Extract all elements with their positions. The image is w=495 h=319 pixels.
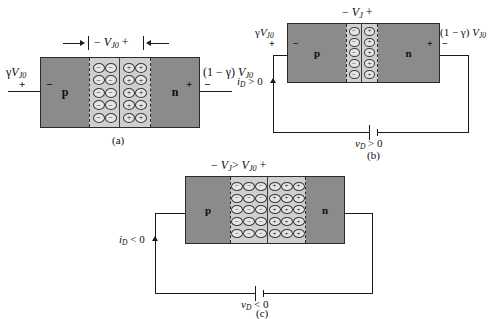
panel-c-charge-row: +++ — [269, 182, 305, 191]
panel-c-n-region: n — [306, 177, 344, 243]
positive-charge-icon: + — [281, 217, 293, 226]
panel-a-n-region: n — [151, 58, 199, 127]
panel-c-depletion-negative-half: −−− −−− −−− −−− −−− — [231, 177, 268, 243]
panel-a-left-lead — [8, 91, 40, 92]
panel-b-current-arrowhead-icon — [270, 78, 276, 83]
panel-b-left-plus-sign: + — [269, 39, 275, 49]
panel-c-charge-row: −−− — [231, 217, 267, 226]
negative-charge-icon: − — [255, 194, 267, 203]
panel-b-right-symbol: V — [472, 26, 479, 38]
panel-b-charge-row: − — [349, 38, 360, 47]
panel-a-left-plus-sign: + — [19, 79, 25, 90]
panel-b-bottom-left-wire — [273, 132, 369, 133]
panel-b-charge-row: + — [364, 38, 375, 47]
panel-c-p-label: p — [205, 204, 211, 216]
panel-c: − VJ> VJ0 + p −−− −−− −−− −−− −−− +++ ++… — [110, 155, 450, 315]
negative-charge-icon: − — [243, 205, 255, 214]
panel-a-charge-row: −− — [93, 100, 117, 110]
panel-c-junction-minus: − — [211, 158, 218, 172]
positive-charge-icon: + — [281, 205, 293, 214]
panel-a-charge-row: −− — [93, 63, 117, 73]
panel-a-junction-plus: + — [122, 35, 129, 49]
positive-charge-icon: + — [123, 63, 135, 73]
panel-a-charge-row: ++ — [123, 88, 147, 98]
panel-b-current-label: iD > 0 — [237, 76, 263, 88]
panel-c-battery-negative-plate — [263, 290, 264, 297]
negative-charge-icon: − — [243, 229, 255, 238]
panel-b-depletion-positive-half: + + + + + — [362, 24, 377, 82]
positive-charge-icon: + — [269, 194, 281, 203]
panel-b-n-label: n — [405, 47, 411, 59]
panel-a-right-minus-sign: − — [204, 79, 210, 90]
panel-c-junction-plus: + — [260, 158, 267, 172]
panel-c-depletion-positive-half: +++ +++ +++ +++ +++ — [268, 177, 305, 243]
panel-b-junction-minus: − — [342, 5, 349, 19]
positive-charge-icon: + — [123, 100, 135, 110]
panel-c-junction-relation: > — [232, 158, 239, 172]
panel-b-charge-row: + — [364, 59, 375, 68]
panel-b-depletion-negative-half: − − − − − — [347, 24, 362, 82]
positive-charge-icon: + — [364, 70, 375, 79]
panel-b-junction-subscript: J — [359, 11, 363, 20]
positive-charge-icon: + — [293, 205, 305, 214]
negative-charge-icon: − — [105, 100, 117, 110]
negative-charge-icon: − — [255, 229, 267, 238]
negative-charge-icon: − — [243, 217, 255, 226]
panel-b-left-wire — [273, 55, 274, 132]
panel-b-charge-row: + — [364, 70, 375, 79]
positive-charge-icon: + — [135, 100, 147, 110]
panel-c-charge-row: +++ — [269, 229, 305, 238]
positive-charge-icon: + — [364, 38, 375, 47]
panel-a-right-plus-sign: + — [186, 79, 192, 90]
negative-charge-icon: − — [93, 75, 105, 85]
panel-b-junction-label: − VJ + — [342, 6, 373, 20]
negative-charge-icon: − — [231, 229, 243, 238]
panel-a-right-prefix: (1 − γ) — [203, 65, 235, 79]
panel-c-p-region: p — [186, 177, 230, 243]
panel-b-charge-row: + — [364, 48, 375, 57]
panel-c-charge-row: +++ — [269, 205, 305, 214]
panel-a-charge-row: ++ — [123, 75, 147, 85]
positive-charge-icon: + — [281, 194, 293, 203]
negative-charge-icon: − — [93, 100, 105, 110]
panel-b-charge-row: + — [364, 27, 375, 36]
panel-b-p-region: p — [288, 24, 346, 82]
positive-charge-icon: + — [123, 75, 135, 85]
panel-b-left-minus-sign: − — [293, 39, 299, 49]
panel-a-depletion-region: −− −− −− −− −− ++ ++ ++ ++ ++ — [89, 58, 151, 127]
negative-charge-icon: − — [231, 194, 243, 203]
negative-charge-icon: − — [231, 205, 243, 214]
panel-a-right-lead — [200, 91, 232, 92]
panel-a-charge-row: ++ — [123, 113, 147, 123]
negative-charge-icon: − — [243, 194, 255, 203]
panel-a-junction-label: − VJ0 + — [94, 36, 129, 50]
panel-a-charge-row: −− — [93, 88, 117, 98]
positive-charge-icon: + — [364, 27, 375, 36]
panel-a-width-tick-left — [88, 36, 89, 50]
panel-a-width-tick-right — [143, 36, 144, 50]
panel-b: − VJ + p − − − − − + + + + + n — [250, 0, 495, 160]
negative-charge-icon: − — [349, 38, 360, 47]
panel-b-p-label: p — [314, 47, 320, 59]
panel-a-junction-subscript: J0 — [111, 41, 119, 50]
panel-c-charge-row: +++ — [269, 217, 305, 226]
panel-b-right-subscript: J0 — [479, 31, 486, 40]
negative-charge-icon: − — [255, 217, 267, 226]
panel-c-junction-label: − VJ> VJ0 + — [211, 159, 266, 173]
negative-charge-icon: − — [349, 70, 360, 79]
positive-charge-icon: + — [364, 59, 375, 68]
negative-charge-icon: − — [255, 205, 267, 214]
positive-charge-icon: + — [293, 229, 305, 238]
panel-c-current-label: iD < 0 — [119, 234, 145, 246]
panel-c-left-wire — [155, 213, 156, 293]
panel-a-charge-row: ++ — [123, 63, 147, 73]
panel-c-charge-row: −−− — [231, 182, 267, 191]
panel-c-top-left-wire — [155, 213, 186, 214]
panel-c-current-arrowhead-icon — [152, 236, 158, 241]
positive-charge-icon: + — [123, 88, 135, 98]
panel-b-charge-row: − — [349, 27, 360, 36]
panel-a-depletion-positive-half: ++ ++ ++ ++ ++ — [120, 58, 150, 127]
panel-c-current-relation: < 0 — [130, 233, 144, 245]
panel-b-bottom-right-wire — [377, 132, 469, 133]
panel-b-current-relation: > 0 — [248, 75, 262, 87]
